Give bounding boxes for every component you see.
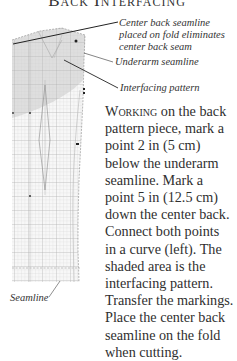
- label-underarm-seamline: Underarm seamline: [115, 56, 199, 68]
- leader-underarm: [84, 53, 113, 62]
- label-interfacing-pattern: Interfacing pattern: [120, 82, 200, 94]
- marking-dot: [29, 112, 31, 114]
- instruction-line: Place the center back: [105, 309, 237, 326]
- marking-dot: [29, 195, 31, 197]
- instruction-line: when cutting.: [105, 344, 237, 361]
- label-center-back: Center back seamline placed on fold elim…: [119, 17, 225, 53]
- instructions-paragraph: Working on the back pattern piece, mark …: [105, 103, 237, 361]
- instruction-line: point 2 in (5 cm): [105, 137, 237, 154]
- instruction-line: down the center back.: [105, 206, 237, 223]
- instruction-line: pattern piece, mark a: [105, 120, 237, 137]
- leader-seamline: [49, 281, 60, 297]
- marking-dot: [83, 92, 85, 94]
- instruction-line: shaded area is the: [105, 258, 237, 275]
- instruction-line: seamline on the fold: [105, 327, 237, 344]
- instruction-line: Transfer the markings.: [105, 292, 237, 309]
- instruction-line: in a curve (left). The: [105, 241, 237, 258]
- instruction-line: below the underarm: [105, 155, 237, 172]
- instruction-line: interfacing pattern.: [105, 275, 237, 292]
- marking-dot: [12, 112, 14, 114]
- instruction-line: Connect both points: [105, 223, 237, 240]
- instruction-line: seamline. Mark a: [105, 172, 237, 189]
- label-seamline: Seamline: [10, 292, 49, 304]
- marking-dot: [75, 40, 78, 43]
- pattern-piece: [0, 0, 100, 300]
- instruction-line: Working on the back: [105, 103, 237, 120]
- instruction-line: point 5 in (12.5 cm): [105, 189, 237, 206]
- marking-dot: [83, 88, 85, 90]
- marking-dot: [76, 143, 79, 145]
